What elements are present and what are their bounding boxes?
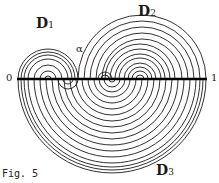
label-d1: D1: [36, 16, 54, 30]
d2-inner-arc: [128, 67, 152, 79]
d3-arc: [82, 79, 142, 109]
d2-arc: [102, 39, 182, 79]
d1-arc: [18, 49, 78, 79]
d2-inner-arc: [119, 58, 161, 79]
label-d3: D3: [156, 163, 174, 177]
label-one: 1: [211, 73, 217, 83]
label-zero: 0: [6, 73, 12, 83]
label-d2: D2: [138, 4, 156, 18]
d3-arc: [18, 79, 206, 173]
arc-families: [18, 15, 206, 173]
d3-arc: [88, 79, 136, 103]
d3-arc: [99, 79, 125, 92]
label-alpha: α: [76, 44, 83, 54]
diagram-canvas: [0, 0, 219, 183]
d1-arc: [34, 65, 62, 79]
figure-caption: Fig. 5: [2, 168, 38, 179]
